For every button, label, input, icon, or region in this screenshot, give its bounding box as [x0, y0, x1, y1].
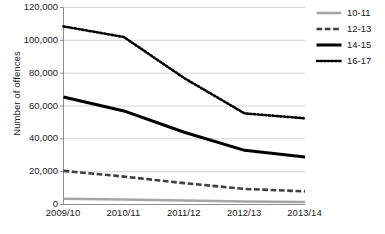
legend-swatch-icon — [316, 7, 342, 19]
series-line-10-11 — [64, 199, 306, 202]
legend-label: 16-17 — [347, 55, 371, 67]
x-axis-tick-labels: 2009/102010/112011/122012/132013/14 — [63, 207, 305, 227]
legend-item-10-11[interactable]: 10-11 — [316, 5, 384, 21]
series-lines — [64, 26, 306, 202]
legend-label: 14-15 — [347, 39, 371, 51]
legend-label: 10-11 — [347, 7, 371, 19]
legend-item-16-17[interactable]: 16-17 — [316, 53, 384, 69]
legend-swatch-icon — [316, 39, 342, 51]
legend-swatch-icon — [316, 23, 342, 35]
legend-label: 12-13 — [347, 23, 371, 35]
y-axis-tick-marks — [60, 8, 64, 205]
series-line-12-13 — [64, 171, 306, 192]
chart-legend: 10-1112-1314-1516-17 — [316, 5, 384, 69]
legend-item-12-13[interactable]: 12-13 — [316, 21, 384, 37]
legend-swatch-icon — [316, 55, 342, 67]
x-axis-tick-label: 2013/14 — [270, 207, 340, 219]
line-chart: Number of offences 020,00040,00060,00080… — [0, 0, 385, 234]
legend-item-14-15[interactable]: 14-15 — [316, 37, 384, 53]
